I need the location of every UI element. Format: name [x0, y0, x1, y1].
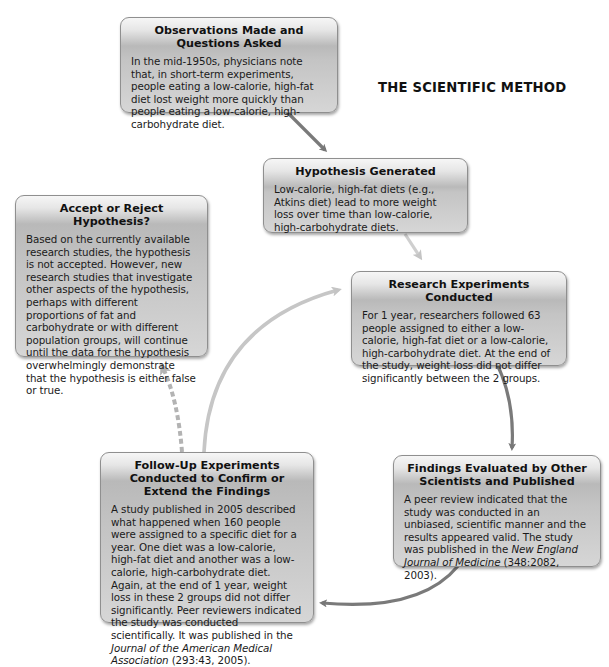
step-findings-title: Findings Evaluated by Other Scientists a… [404, 462, 590, 488]
step-accept-reject-title: Accept or Reject Hypothesis? [26, 202, 197, 228]
step-experiments-title: Research Experiments Conducted [362, 278, 556, 304]
step-followup: Follow-Up Experiments Conducted to Confi… [100, 452, 314, 623]
step-experiments-body: For 1 year, researchers followed 63 peop… [362, 309, 556, 385]
arrow-followup-to-experiments [204, 290, 338, 452]
step-findings: Findings Evaluated by Other Scientists a… [393, 455, 601, 567]
step-observations-body: In the mid-1950s, physicians note that, … [131, 55, 327, 131]
step-accept-reject-body: Based on the currently available researc… [26, 233, 197, 397]
step-experiments: Research Experiments Conducted For 1 yea… [351, 271, 567, 366]
step-hypothesis: Hypothesis Generated Low-calorie, high-f… [263, 158, 468, 233]
step-followup-title: Follow-Up Experiments Conducted to Confi… [111, 459, 303, 498]
followup-body-text: A study published in 2005 described what… [111, 503, 301, 641]
step-accept-reject: Accept or Reject Hypothesis? Based on th… [15, 195, 208, 357]
step-observations-title: Observations Made and Questions Asked [131, 24, 327, 50]
step-hypothesis-title: Hypothesis Generated [274, 165, 457, 178]
step-hypothesis-body: Low-calorie, high-fat diets (e.g., Atkin… [274, 183, 457, 233]
diagram-title: THE SCIENTIFIC METHOD [378, 80, 566, 95]
step-followup-body: A study published in 2005 described what… [111, 503, 303, 667]
step-observations: Observations Made and Questions Asked In… [120, 17, 338, 113]
arrow-hypothesis-to-experiments [405, 234, 420, 257]
step-findings-body: A peer review indicated that the study w… [404, 493, 590, 581]
followup-citation: (293:43, 2005). [169, 654, 251, 666]
